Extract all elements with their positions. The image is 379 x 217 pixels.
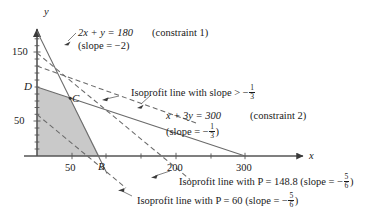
- x-tick-300: 300: [236, 162, 252, 173]
- constraint2-slope: (slope = −13): [166, 123, 219, 139]
- y-tick-50: 50: [14, 115, 25, 126]
- isoprofit-shallow-fraction: 13: [249, 84, 255, 100]
- constraint1-equation: 2x + y = 180: [78, 27, 133, 38]
- constraint1-tag: (constraint 1): [152, 27, 208, 38]
- y-tick-150: 150: [12, 46, 28, 57]
- vertex-label-c: C: [72, 93, 79, 105]
- x-tick-50: 50: [65, 162, 76, 173]
- vertex-label-d: D: [24, 81, 32, 93]
- y-axis-label: y: [44, 6, 49, 17]
- x-tick-200: 200: [167, 162, 183, 173]
- isoprofit-p60-fraction: 56: [288, 192, 294, 208]
- vertex-label-b: B: [98, 161, 105, 173]
- isoprofit-p60-label: Isoprofit line with P = 60 (slope = −56): [137, 192, 298, 208]
- isoprofit-p1488-fraction: 56: [344, 173, 350, 189]
- isoprofit-shallow-label: Isoprofit line with slope > −13: [131, 84, 256, 100]
- constraint2-slope-fraction: 13: [209, 123, 215, 139]
- x-axis-label: x: [309, 150, 314, 161]
- isoprofit-shallow-text: Isoprofit line with slope > −: [131, 87, 249, 98]
- constraint2-tag: (constraint 2): [250, 110, 306, 121]
- linear-programming-figure: y x 150 50 50 200 300 D C B 2x + y = 180…: [0, 0, 379, 217]
- isoprofit-p1488-label: Isoprofit line with P = 148.8 (slope = −…: [179, 173, 353, 189]
- constraint2-equation: x + 3y = 300: [166, 110, 221, 121]
- constraint1-slope: (slope = −2): [78, 40, 130, 51]
